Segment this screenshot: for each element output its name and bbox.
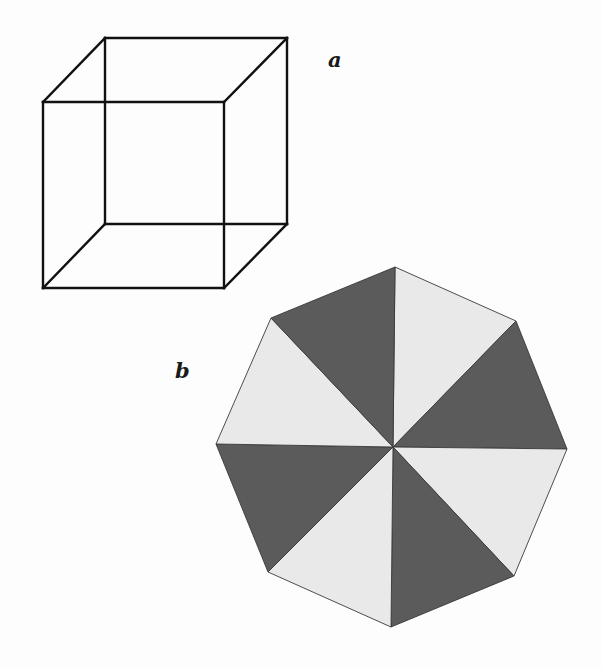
panel-label-b: b bbox=[175, 360, 190, 381]
depth-edge-top-left bbox=[43, 38, 105, 102]
depth-edge-bottom-left bbox=[43, 224, 105, 288]
depth-edge-bottom-right bbox=[224, 224, 287, 288]
panel-label-a: a bbox=[328, 49, 342, 70]
figure-canvas bbox=[0, 0, 602, 669]
depth-edge-top-right bbox=[224, 38, 287, 102]
octagon-sector-figure bbox=[216, 267, 567, 627]
necker-cube bbox=[43, 38, 287, 288]
